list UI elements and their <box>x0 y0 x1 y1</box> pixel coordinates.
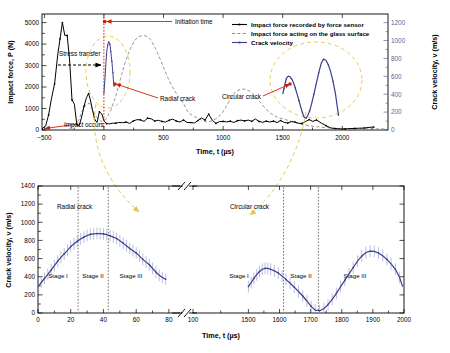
top-y-left-axis-label: Impact force, P (N) <box>6 40 15 104</box>
tick-label: 2000 <box>397 316 412 323</box>
circular-crack-label: Circular crack <box>222 93 262 100</box>
series-circular-crack <box>248 251 402 311</box>
radial-crack-section-label: Radial crack <box>57 203 93 210</box>
series-radial-crack-markers <box>37 233 166 288</box>
stage-label: Stage II <box>82 272 104 279</box>
tick-label: 800 <box>391 55 402 62</box>
tick-label: 40 <box>100 316 108 323</box>
stage-label: Stage III <box>119 272 142 279</box>
tick-label: 60 <box>133 316 141 323</box>
tick-label: 100 <box>188 316 199 323</box>
tick-label: 1600 <box>272 316 287 323</box>
initiation-time-marker <box>103 20 106 23</box>
stage-label: Stage II <box>290 272 312 279</box>
top-x-axis-label: Time, t (µs) <box>196 147 235 156</box>
bottom-panel: 0 200 400 600 800 1000 1200 1400 Crack v… <box>4 182 412 340</box>
top-y-right-axis-label: Crack velocity, v (m/s) <box>430 34 439 110</box>
radial-crack-marker <box>113 83 116 86</box>
tick-label: 20 <box>67 316 75 323</box>
bottom-y-axis-label: Crack velocity, v (m/s) <box>4 212 13 288</box>
tick-label: 500 <box>158 134 169 141</box>
tick-label: 400 <box>24 273 35 280</box>
radial-errorbars <box>38 228 166 293</box>
tick-label: 400 <box>391 91 402 98</box>
tick-label: 600 <box>24 255 35 262</box>
tick-label: 0 <box>36 316 40 323</box>
figure-svg: 0 1000 2000 3000 4000 5000 Impact force,… <box>0 0 450 353</box>
tick-label: 0 <box>31 309 35 316</box>
tick-label: 200 <box>391 108 402 115</box>
tick-label: 0 <box>391 126 395 133</box>
tick-label: 200 <box>24 291 35 298</box>
tick-label: 3000 <box>25 62 40 69</box>
tick-label: 1200 <box>391 19 406 26</box>
tick-label: 2000 <box>335 134 350 141</box>
bottom-x-axis-label: Time, t (µs) <box>202 331 241 340</box>
circular-crack-marker <box>289 83 292 86</box>
tick-label: 1000 <box>391 37 406 44</box>
bottom-x-tick-labels-left: 0 20 40 60 80 <box>36 316 173 323</box>
bottom-y-tick-labels: 0 200 400 600 800 1000 1200 1400 <box>21 182 36 316</box>
series-circular-crack-markers <box>248 250 397 311</box>
tick-label: 800 <box>24 237 35 244</box>
stage-label: Stage I <box>229 272 249 279</box>
tick-label: 1500 <box>276 134 291 141</box>
bottom-x-tick-labels-right: 100 1500 1600 1700 1800 1900 2000 <box>188 316 412 323</box>
tick-label: 1900 <box>366 316 381 323</box>
legend-item-crack-velocity: Crack velocity <box>251 39 294 46</box>
radial-stage-labels: Stage I Stage II Stage III <box>48 272 143 279</box>
tick-label: 0 <box>35 126 39 133</box>
top-right-tick-labels: 0 200 400 600 800 1000 1200 <box>391 19 406 133</box>
top-left-tick-labels: 0 1000 2000 3000 4000 5000 <box>25 19 40 133</box>
axis-break-mask <box>179 187 195 312</box>
radial-crack-label: Radial crack <box>160 95 196 102</box>
tick-label: 80 <box>165 316 173 323</box>
tick-label: 1000 <box>21 219 36 226</box>
tick-label: 1500 <box>241 316 256 323</box>
tick-label: −500 <box>37 134 52 141</box>
tick-label: 1800 <box>335 316 350 323</box>
top-x-tick-labels: −500 0 500 1000 1500 2000 <box>37 134 350 141</box>
tick-label: 1200 <box>21 200 36 207</box>
initiation-time-label: Initiation time <box>175 18 213 25</box>
bottom-y-axis <box>38 186 404 313</box>
circular-crack-section-label: Circular crack <box>230 203 270 210</box>
tick-label: 1000 <box>216 134 231 141</box>
stress-transfer-label: Stress transfer <box>59 50 101 57</box>
tick-label: 2000 <box>25 83 40 90</box>
legend-item-glass-surface: Impact force acting on the glass surface <box>251 30 370 37</box>
legend-item-force-sensor: Impact force recorded by force sensor <box>251 21 364 28</box>
impact-occurs-label: Impact occurs <box>64 121 104 129</box>
figure-container: 0 1000 2000 3000 4000 5000 Impact force,… <box>0 0 450 353</box>
tick-label: 1700 <box>303 316 318 323</box>
tick-label: 0 <box>102 134 106 141</box>
tick-label: 4000 <box>25 40 40 47</box>
tick-label: 1400 <box>21 182 36 189</box>
tick-label: 1000 <box>25 105 40 112</box>
tick-label: 600 <box>391 73 402 80</box>
top-panel: 0 1000 2000 3000 4000 5000 Impact force,… <box>6 14 439 156</box>
tick-label: 5000 <box>25 19 40 26</box>
circular-errorbars <box>248 245 399 316</box>
